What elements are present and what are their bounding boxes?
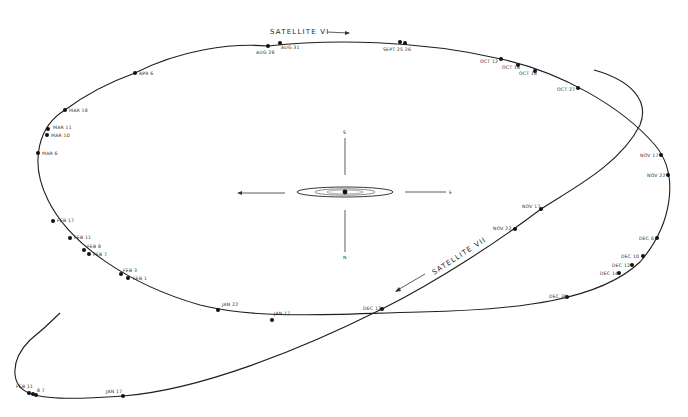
satellite-vii-date-label: JAN 17 <box>105 389 122 394</box>
satellite-vi-date-label: OCT 27 <box>557 87 575 92</box>
satellite-vii-point-marker <box>121 394 125 398</box>
satellite-vi-date-label: DEC 12 <box>612 263 630 268</box>
satellite-vii-date-label: NOV 22 <box>493 226 512 231</box>
satellite-vi-date-label: DEC 30 <box>549 294 567 299</box>
arrow-left-icon <box>395 287 401 292</box>
satellite-vi-point-marker <box>87 252 91 256</box>
south-label: N <box>343 255 347 260</box>
satellite-vi-point-marker <box>82 248 86 252</box>
satellite-vi-date-label: FEB 7 <box>93 252 107 257</box>
satellite-vii-label: SATELLITE VII <box>431 236 488 277</box>
west-arrow-icon <box>237 191 242 195</box>
satellite-vi-date-label: SEPT 25 26 <box>383 47 411 52</box>
satellite-vi-point-marker <box>630 263 634 267</box>
satellite-vi-point-marker <box>641 254 645 258</box>
satellite-vi-date-label: MAR 10 <box>51 133 70 138</box>
satellite-vi-point-marker <box>655 236 659 240</box>
satellite-vi-point-marker <box>576 86 580 90</box>
satellite-vii-points: NOV 17NOV 22DEC 12JAN 17FEB 118 7 <box>16 204 543 398</box>
satellite-vi-point-marker <box>499 57 503 61</box>
satellite-vii-orbit <box>15 70 643 398</box>
satellite-vi-date-label: MAR 18 <box>69 108 88 113</box>
satellite-vi-date-label: FEB 17 <box>57 218 74 223</box>
satellite-vi-date-label: FEB 11 <box>74 235 91 240</box>
satellite-vii-date-label: DEC 12 <box>363 306 381 311</box>
satellite-vi-date-label: NOV 17 <box>640 153 659 158</box>
satellite-vi-date-label: OCT 12 <box>480 59 498 64</box>
satellite-vi-label: SATELLITE VI <box>270 28 330 36</box>
north-label: S <box>343 130 346 135</box>
satellite-vi-date-label: JAN 22 <box>221 302 238 307</box>
satellite-vi-point-marker <box>51 219 55 223</box>
satellite-vi-point-marker <box>36 151 40 155</box>
satellite-vi-date-label: FEB 8 <box>87 244 101 249</box>
satellite-vi-point-marker <box>126 276 130 280</box>
satellite-vi-date-label: DEC 6 <box>639 236 654 241</box>
satellite-vi-date-label: DEC 14 <box>600 271 618 276</box>
satellite-vi-date-label: DEC 10 <box>621 254 639 259</box>
satellite-vi-date-label: JAN 17 <box>273 311 290 316</box>
satellite-vi-date-label: OCT 16 <box>502 65 520 70</box>
satellite-vi-date-label: FEB 1 <box>133 276 147 281</box>
satellite-vii-date-label: 8 7 <box>37 388 45 393</box>
satellite-vi-date-label: OCT 18 <box>519 71 537 76</box>
arrow-right-icon <box>345 31 350 35</box>
satellite-vi-date-label: MAR 6 <box>42 151 58 156</box>
satellite-vi-point-marker <box>666 173 670 177</box>
satellite-vi-date-label: APR 6 <box>139 71 154 76</box>
satellite-vi-date-label: FEB 3 <box>123 268 137 273</box>
satellite-vii-point-marker <box>34 393 38 397</box>
satellite-vii-date-label: FEB 11 <box>16 384 33 389</box>
satellite-vi-date-label: NOV 22 <box>647 173 666 178</box>
satellite-vii-point-marker <box>27 391 31 395</box>
satellite-vi-point-marker <box>266 44 270 48</box>
satellite-vi-date-label: AUG 31 <box>281 45 300 50</box>
satellite-vi-point-marker <box>270 318 274 322</box>
satellite-vi-point-marker <box>45 133 49 137</box>
satellite-vi-point-marker <box>68 236 72 240</box>
satellite-vi-date-label: MAR 11 <box>53 125 72 130</box>
satellite-vi-point-marker <box>398 40 402 44</box>
satellite-vi-point-marker <box>403 41 407 45</box>
satellite-vi-point-marker <box>46 127 50 131</box>
orbit-diagram: S N E SATELLITE VI SATELLITE VII AUG 28A… <box>0 0 688 417</box>
satellite-vi-point-marker <box>659 153 663 157</box>
satellite-vi-point-marker <box>216 308 220 312</box>
east-label: E <box>449 190 452 195</box>
satellite-vi-point-marker <box>63 108 67 112</box>
satellite-vii-date-label: NOV 17 <box>522 204 541 209</box>
satellite-vii-point-marker <box>513 227 517 231</box>
satellite-vi-points: AUG 28AUG 31SEPT 25 26OCT 12OCT 16OCT 18… <box>36 40 670 322</box>
satellite-vi-date-label: AUG 28 <box>256 50 275 55</box>
planet-center <box>297 187 393 197</box>
satellite-vi-point-marker <box>133 71 137 75</box>
satellite-vi-orbit <box>38 42 670 315</box>
